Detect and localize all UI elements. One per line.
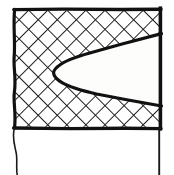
wedge-notch-diagram [0, 0, 174, 175]
block-top-edge [14, 9, 161, 10]
figure-canvas [0, 0, 174, 175]
block-left-edge [14, 9, 15, 127]
block-bottom-edge [14, 128, 161, 129]
